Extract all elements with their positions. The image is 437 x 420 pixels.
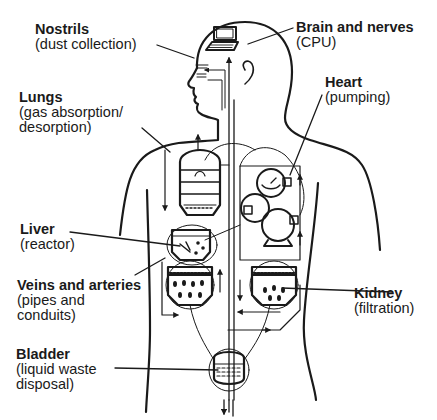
label-veins-sub-1: (pipes and — [17, 293, 141, 308]
label-liver-title: Liver — [20, 222, 75, 237]
label-nostrils: Nostrils (dust collection) — [35, 22, 137, 52]
label-nostrils-title: Nostrils — [35, 22, 137, 37]
label-veins-title: Veins and arteries — [17, 278, 141, 293]
label-brain-title: Brain and nerves — [296, 20, 414, 35]
label-kidney-title: Kidney — [354, 286, 414, 301]
nostril-filter-icon — [196, 65, 225, 110]
label-veins: Veins and arteries (pipes and conduits) — [17, 278, 141, 323]
label-lungs-title: Lungs — [19, 90, 123, 105]
label-brain-sub: (CPU) — [296, 35, 414, 50]
label-lungs: Lungs (gas absorption/ desorption) — [19, 90, 123, 135]
bladder-vessel — [190, 305, 270, 391]
label-bladder-title: Bladder — [16, 347, 97, 362]
label-liver-sub: (reactor) — [20, 237, 75, 252]
label-lungs-sub-2: desorption) — [19, 120, 123, 135]
label-bladder-sub-2: disposal) — [16, 377, 97, 392]
lungs-absorption-column — [165, 135, 229, 215]
label-heart-title: Heart — [325, 75, 390, 90]
label-liver: Liver (reactor) — [20, 222, 75, 252]
label-heart: Heart (pumping) — [325, 75, 390, 105]
label-nostrils-sub: (dust collection) — [35, 37, 137, 52]
label-veins-sub-2: conduits) — [17, 308, 141, 323]
main-vessels — [224, 58, 234, 416]
kidney-right-filter — [220, 261, 300, 330]
kidney-left-filter — [162, 261, 214, 315]
body-chemical-plant-diagram: Nostrils (dust collection) Brain and ner… — [0, 0, 437, 420]
label-lungs-sub-1: (gas absorption/ — [19, 105, 123, 120]
head-outline — [120, 22, 380, 250]
label-brain: Brain and nerves (CPU) — [296, 20, 414, 50]
label-kidney: Kidney (filtration) — [354, 286, 414, 316]
label-heart-sub: (pumping) — [325, 90, 390, 105]
brain-computer-icon — [206, 27, 238, 50]
label-bladder: Bladder (liquid waste disposal) — [16, 347, 97, 392]
label-bladder-sub-1: (liquid waste — [16, 362, 97, 377]
label-kidney-sub: (filtration) — [354, 301, 414, 316]
